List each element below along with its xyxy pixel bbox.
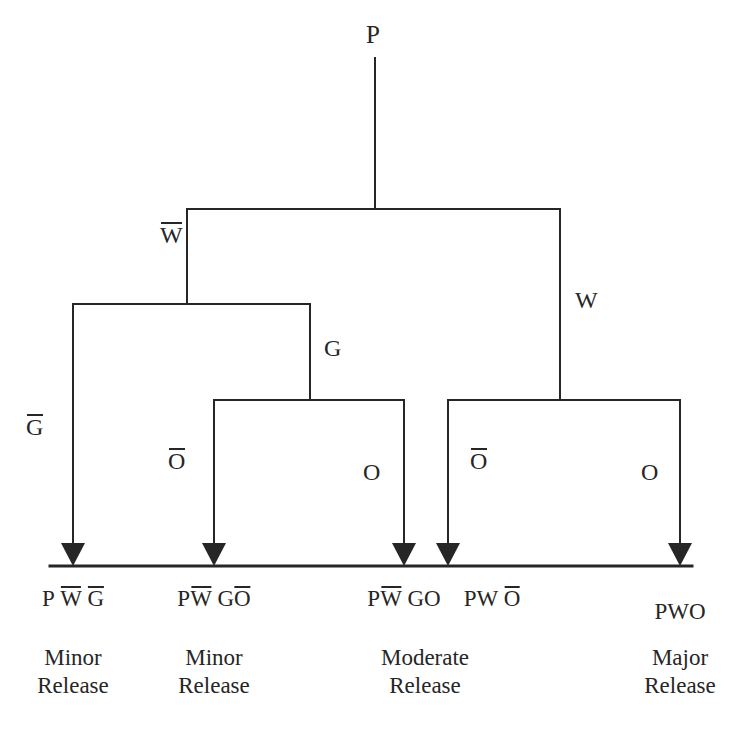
outcome-expression-2: PWGO [177, 586, 250, 610]
token: PWO [654, 599, 705, 624]
token-overbar: W [60, 586, 82, 610]
token-overbar: O [234, 586, 251, 610]
release-label-4: Major Release [644, 644, 716, 700]
token: PW [464, 586, 499, 611]
arrowhead-3 [392, 543, 416, 566]
token: G [217, 586, 234, 611]
token: GO [407, 586, 440, 611]
token-overbar: W [190, 586, 212, 610]
release-label-2: Minor Release [178, 644, 250, 700]
branch-label-o-2: O [641, 460, 658, 484]
branch-label-o-bar-1: O [168, 448, 185, 473]
token-overbar: O [504, 586, 521, 610]
release-line-2: Release [37, 672, 109, 700]
tree-line-layer [0, 0, 746, 736]
branch-label-w-bar: W [160, 222, 183, 247]
branch-label-o-bar-2: O [470, 448, 487, 473]
branch-label-o-1: O [363, 460, 380, 484]
overbar-glyph-g: G [26, 414, 43, 439]
arrowhead-2 [202, 543, 226, 566]
root-node-label: P [366, 22, 380, 47]
overbar-glyph-o-1: O [168, 448, 185, 473]
token: P [177, 586, 190, 611]
token: P [367, 586, 380, 611]
release-line-1: Minor [178, 644, 250, 672]
release-label-1: Minor Release [37, 644, 109, 700]
outcome-expression-3: PWGO [367, 586, 440, 610]
release-line-2: Release [644, 672, 716, 700]
outcome-expression-4: PWO [464, 586, 521, 610]
outcome-expression-5: PWO [654, 600, 705, 623]
release-line-1: Moderate [381, 644, 469, 672]
release-line-2: Release [178, 672, 250, 700]
overbar-glyph-o-2: O [470, 448, 487, 473]
branch-label-g-bar: G [26, 414, 43, 439]
arrowhead-1 [61, 543, 85, 566]
overbar-glyph-w: W [160, 222, 183, 247]
release-line-1: Major [644, 644, 716, 672]
outcome-expression-1: PWG [42, 586, 104, 610]
branch-label-w: W [575, 288, 598, 312]
release-line-2: Release [381, 672, 469, 700]
token-overbar: G [87, 586, 104, 610]
event-tree-diagram: P W W G G O O O O PWG PWGO PWGO PWO PWO … [0, 0, 746, 736]
token: P [42, 586, 55, 611]
arrowhead-5 [668, 543, 692, 566]
token-overbar: W [380, 586, 402, 610]
release-line-1: Minor [37, 644, 109, 672]
release-label-3: Moderate Release [381, 644, 469, 700]
arrowhead-4 [436, 543, 460, 566]
branch-label-g: G [324, 336, 341, 360]
